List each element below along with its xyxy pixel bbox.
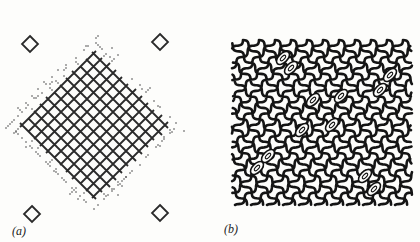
figure-panel-a: (a) <box>0 0 210 242</box>
panel-label-a: (a) <box>12 224 26 239</box>
figure-panel-b: (b) <box>210 0 420 242</box>
isolated-diamond <box>152 205 168 221</box>
diamond-lattice-image <box>0 0 210 242</box>
panel-label-b: (b) <box>224 222 238 237</box>
isolated-diamond <box>22 36 38 52</box>
wavy-lattice-image <box>210 0 420 242</box>
isolated-diamond <box>24 206 40 222</box>
isolated-diamond <box>152 34 168 50</box>
